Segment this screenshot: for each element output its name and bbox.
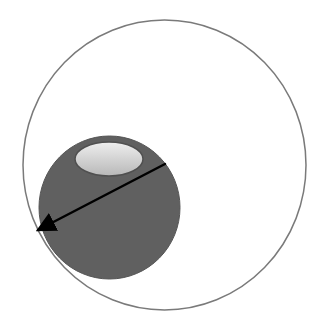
sphere-highlight: [75, 142, 143, 176]
sphere-in-circle-diagram: [0, 0, 322, 329]
